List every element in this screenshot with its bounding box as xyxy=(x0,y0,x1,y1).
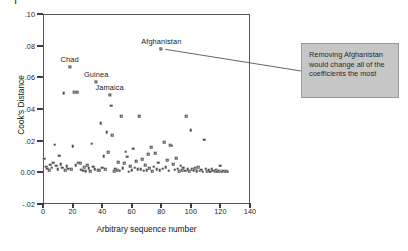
scatter-point xyxy=(99,122,102,125)
scatter-point xyxy=(147,153,150,156)
scatter-point xyxy=(164,166,167,169)
figure-canvas: F -.020.00.02.04.06.08.10 02040608010012… xyxy=(0,0,408,251)
scatter-point xyxy=(203,138,206,141)
scatter-point xyxy=(130,169,133,172)
scatter-point xyxy=(70,168,73,171)
scatter-point xyxy=(141,158,144,161)
scatter-point xyxy=(175,157,178,160)
y-tick-label: .04 xyxy=(25,105,35,114)
scatter-point xyxy=(48,169,51,172)
scatter-point xyxy=(111,134,114,137)
scatter-point xyxy=(58,154,61,157)
scatter-point xyxy=(107,151,110,154)
x-tick-label: 40 xyxy=(98,207,106,216)
scatter-point xyxy=(117,161,120,164)
y-tick-label: .10 xyxy=(25,10,35,19)
y-tick-mark xyxy=(37,45,43,47)
y-tick-label: .06 xyxy=(25,73,35,82)
x-axis-label: Arbitrary sequence number xyxy=(43,224,250,234)
y-tick-mark xyxy=(37,140,43,142)
x-tick-label: 80 xyxy=(157,207,165,216)
scatter-point xyxy=(62,92,65,95)
point-label-chad: Chad xyxy=(61,55,79,64)
y-tick-mark xyxy=(37,108,43,110)
scatter-point xyxy=(68,65,71,68)
scatter-point xyxy=(154,152,157,155)
scatter-point xyxy=(219,164,222,167)
scatter-point xyxy=(102,155,105,158)
scatter-point xyxy=(163,141,166,144)
clipped-caption-glyph: F xyxy=(14,0,21,7)
point-label-guinea: Guinea xyxy=(84,70,108,79)
x-tick-label: 100 xyxy=(185,207,197,216)
x-tick-label: 120 xyxy=(214,207,226,216)
scatter-point xyxy=(76,91,79,94)
scatter-point xyxy=(74,164,77,167)
x-tick-label: 20 xyxy=(68,207,76,216)
scatter-point xyxy=(132,148,135,151)
scatter-point xyxy=(89,170,92,173)
x-tick-label: 0 xyxy=(41,207,45,216)
scatter-point xyxy=(135,160,138,163)
scatter-point xyxy=(105,131,108,134)
scatter-point xyxy=(108,93,111,96)
scatter-point xyxy=(123,162,126,165)
scatter-point xyxy=(126,156,129,159)
scatter-point xyxy=(43,158,46,161)
point-label-afghanistan: Afghanistan xyxy=(141,37,181,46)
y-tick-label: .02 xyxy=(25,137,35,146)
scatter-point xyxy=(227,171,230,174)
scatter-point xyxy=(150,146,153,149)
scatter-point xyxy=(55,164,58,167)
scatter-point xyxy=(110,105,113,108)
annotation-callout: Removing Afghanistan would change all of… xyxy=(301,43,399,98)
y-axis-label: Cook's Distance xyxy=(16,40,26,170)
y-tick-mark xyxy=(37,171,43,173)
y-tick-mark xyxy=(37,76,43,78)
scatter-point xyxy=(129,165,132,168)
scatter-point xyxy=(157,162,160,165)
point-label-jamaica: Jamaica xyxy=(95,83,123,92)
scatter-point xyxy=(90,143,93,146)
scatter-point xyxy=(51,167,54,170)
scatter-point xyxy=(104,168,107,171)
scatter-point xyxy=(160,47,163,50)
scatter-point xyxy=(71,145,74,148)
scatter-point xyxy=(59,163,62,166)
scatter-point xyxy=(167,169,170,172)
scatter-point xyxy=(79,162,82,165)
y-tick-label: .08 xyxy=(25,42,35,51)
x-tick-label: 60 xyxy=(128,207,136,216)
scatter-point xyxy=(201,170,204,173)
scatter-point xyxy=(120,115,123,118)
x-tick-label: 140 xyxy=(244,207,256,216)
scatter-point xyxy=(172,163,175,166)
scatter-point xyxy=(138,115,141,118)
scatter-point xyxy=(151,170,154,173)
scatter-point xyxy=(56,168,59,171)
scatter-point xyxy=(85,170,88,173)
scatter-point xyxy=(54,143,57,146)
scatter-point xyxy=(185,115,188,118)
scatter-point xyxy=(166,159,169,162)
scatter-point xyxy=(119,169,122,172)
scatter-point xyxy=(190,129,193,132)
scatter-point xyxy=(122,167,125,170)
scatter-point xyxy=(170,144,173,147)
y-tick-mark xyxy=(37,13,43,15)
y-tick-label: -.02 xyxy=(22,200,35,209)
scatter-point xyxy=(144,164,147,167)
scatter-point xyxy=(98,169,101,172)
scatter-point xyxy=(125,150,128,153)
